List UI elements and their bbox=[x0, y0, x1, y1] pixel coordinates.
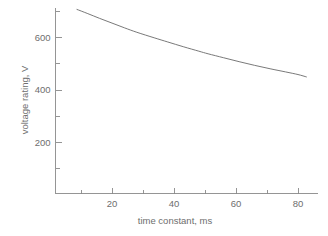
y-axis-title: voltage rating, V bbox=[19, 65, 30, 134]
x-tick-label: 80 bbox=[293, 198, 304, 209]
line-chart: 200400600 20406080 time constant, ms vol… bbox=[0, 0, 328, 236]
x-tick-label: 40 bbox=[169, 198, 180, 209]
y-tick-label: 600 bbox=[35, 32, 51, 43]
x-axis-title: time constant, ms bbox=[138, 215, 213, 226]
y-tick-label: 200 bbox=[35, 137, 51, 148]
data-series-line bbox=[77, 9, 306, 76]
x-axis-ticks bbox=[82, 188, 299, 194]
y-axis-tick-labels: 200400600 bbox=[35, 32, 51, 148]
x-axis-tick-labels: 20406080 bbox=[107, 198, 304, 209]
y-tick-label: 400 bbox=[35, 84, 51, 95]
x-tick-label: 20 bbox=[107, 198, 118, 209]
chart-container: 200400600 20406080 time constant, ms vol… bbox=[0, 0, 328, 236]
y-axis-ticks bbox=[56, 11, 62, 169]
x-tick-label: 60 bbox=[231, 198, 242, 209]
